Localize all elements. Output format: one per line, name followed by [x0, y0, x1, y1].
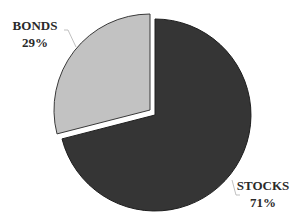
slice-bonds[interactable]: [54, 14, 150, 134]
label-bonds-name: BONDS: [4, 17, 66, 34]
label-stocks-name: STOCKS: [228, 177, 298, 194]
label-bonds: BONDS 29%: [4, 17, 66, 51]
label-stocks: STOCKS 71%: [228, 177, 298, 211]
label-stocks-percent: 71%: [228, 194, 298, 211]
label-bonds-percent: 29%: [4, 34, 66, 51]
